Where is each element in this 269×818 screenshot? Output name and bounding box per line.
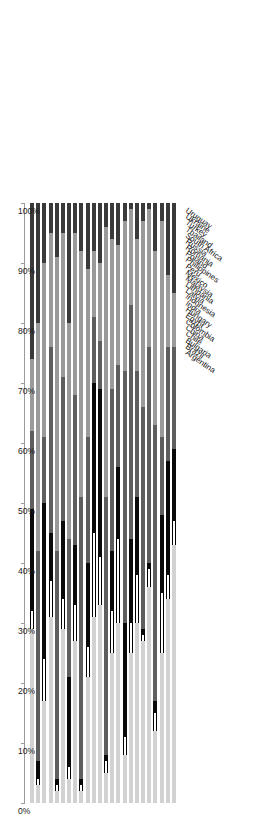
bar-segment <box>86 269 90 437</box>
bar-segment <box>110 203 114 239</box>
bar-segment <box>49 533 53 581</box>
bar-segment <box>123 755 127 803</box>
bar-segment <box>129 539 133 623</box>
bar-segment <box>61 377 65 521</box>
bar-segment <box>98 605 102 803</box>
bar-segment <box>98 341 102 389</box>
bar-segment <box>92 203 96 251</box>
bar-segment <box>42 503 46 659</box>
bar-segment <box>123 221 127 371</box>
bar-segment <box>116 203 120 245</box>
bar-row <box>172 203 176 803</box>
bar-segment <box>86 203 90 269</box>
bar-segment <box>67 767 71 779</box>
bar-segment <box>135 239 139 371</box>
bar-segment <box>129 203 133 209</box>
bar-segment <box>98 263 102 341</box>
bar-segment <box>73 641 77 803</box>
bar-segment <box>30 629 34 803</box>
bar-segment <box>61 599 65 629</box>
bar-segment <box>73 395 77 545</box>
bar-segment <box>147 569 151 587</box>
bar-row <box>135 203 139 803</box>
bar-segment <box>67 323 71 539</box>
bar-segment <box>129 209 133 305</box>
bar-segment <box>110 653 114 803</box>
bar-segment <box>30 431 34 509</box>
axis-tick-label: 60% <box>18 446 35 456</box>
bar-row <box>129 203 133 803</box>
bar-segment <box>61 233 65 377</box>
bar-segment <box>61 629 65 803</box>
bar-segment <box>160 653 164 803</box>
bar-segment <box>79 497 83 779</box>
bar-segment <box>129 305 133 539</box>
bar-segment <box>36 551 40 761</box>
bar-segment <box>147 587 151 803</box>
bar-segment <box>86 647 90 677</box>
bar-segment <box>86 437 90 563</box>
bar-segment <box>98 203 102 263</box>
bar-segment <box>98 557 102 605</box>
bar-segment <box>79 203 83 251</box>
bar-segment <box>42 437 46 503</box>
bar-row <box>166 203 170 803</box>
bar-segment <box>42 203 46 263</box>
axis-tick-label: 30% <box>18 626 35 636</box>
axis-tick <box>21 563 25 564</box>
bar-row <box>79 203 83 803</box>
axis-tick <box>21 383 25 384</box>
bar-row <box>104 203 108 803</box>
bar-segment <box>116 245 120 365</box>
bar-segment <box>36 203 40 323</box>
bar-segment <box>123 623 127 737</box>
bar-row <box>73 203 77 803</box>
bar-segment <box>166 575 170 599</box>
bar-segment <box>73 233 77 395</box>
bar-segment <box>123 737 127 755</box>
axis-tick-label: 0% <box>18 806 30 816</box>
bar-row <box>86 203 90 803</box>
bar-segment <box>104 773 108 803</box>
bar-segment <box>55 257 59 551</box>
bar-segment <box>129 653 133 803</box>
bar-segment <box>153 425 157 701</box>
bar-segment <box>172 347 176 449</box>
bar-segment <box>110 611 114 653</box>
bar-segment <box>42 659 46 701</box>
bar-row <box>67 203 71 803</box>
bar-segment <box>141 641 145 803</box>
bar-segment <box>116 467 120 539</box>
bar-segment <box>67 203 71 323</box>
bar-segment <box>79 251 83 497</box>
bar-segment <box>30 509 34 611</box>
axis-tick <box>21 803 25 804</box>
axis-tick <box>21 623 25 624</box>
bar-segment <box>67 539 71 677</box>
bar-segment <box>153 731 157 803</box>
bar-row <box>160 203 164 803</box>
axis-tick-label: 10% <box>18 746 35 756</box>
bar-row <box>116 203 120 803</box>
bar-segment <box>172 293 176 347</box>
bar-segment <box>86 563 90 647</box>
bar-segment <box>160 593 164 653</box>
bar-segment <box>92 383 96 533</box>
bar-segment <box>166 203 170 275</box>
axis-tick-label: 100% <box>18 206 40 216</box>
bar-segment <box>104 203 108 227</box>
bar-segment <box>135 371 139 497</box>
bar-row <box>61 203 65 803</box>
bar-segment <box>104 755 108 761</box>
bar-segment <box>92 251 96 317</box>
bar-segment <box>141 203 145 221</box>
plot-canvas: 100%90%80%70%60%50%40%30%20%10%0% Urugua… <box>0 195 195 818</box>
axis-tick <box>21 503 25 504</box>
bar-segment <box>147 203 151 209</box>
bar-row <box>92 203 96 803</box>
bar-segment <box>49 581 53 617</box>
bar-segment <box>135 203 139 239</box>
bar-segment <box>36 785 40 803</box>
bar-row <box>98 203 102 803</box>
bar-segment <box>55 203 59 257</box>
